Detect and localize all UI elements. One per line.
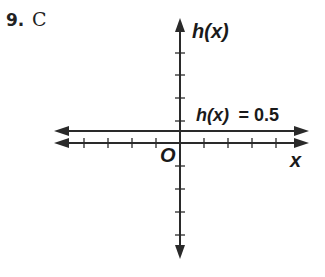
origin-label: O	[160, 144, 176, 166]
y-axis-label: h(x)	[192, 20, 229, 42]
x-axis-label: x	[289, 149, 302, 171]
x-axis-right-arrow-icon	[294, 138, 309, 148]
function-label-fn: h(x)	[196, 105, 229, 125]
function-left-arrow-icon	[54, 126, 69, 136]
y-axis-up-arrow-icon	[175, 18, 185, 32]
function-label-eq: = 0.5	[239, 105, 280, 125]
function-label: h(x) = 0.5	[196, 105, 279, 125]
x-axis-left-arrow-icon	[54, 138, 69, 148]
function-right-arrow-icon	[294, 126, 309, 136]
y-axis-down-arrow-icon	[175, 245, 185, 259]
graph: h(x) x O h(x) = 0.5	[0, 0, 325, 277]
